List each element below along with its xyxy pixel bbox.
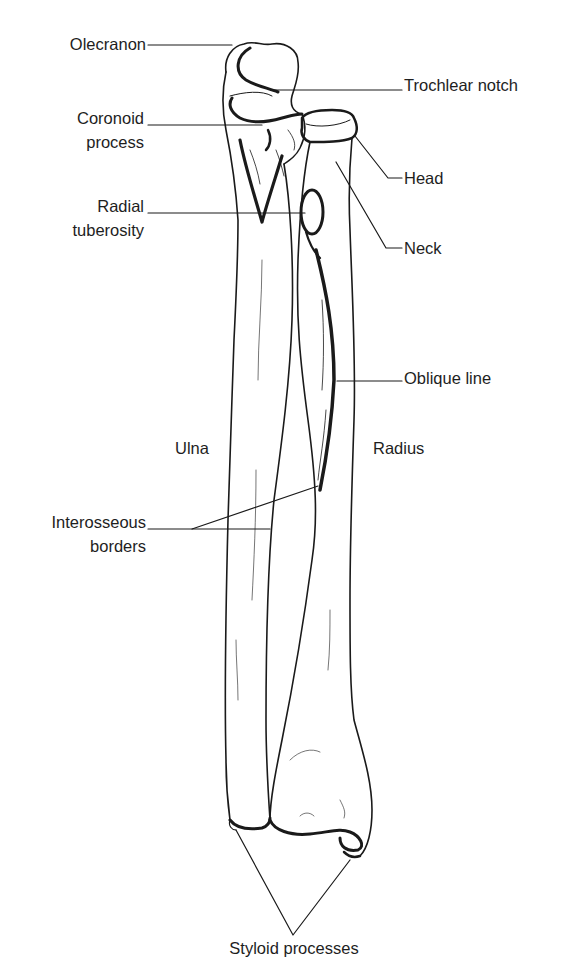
label-oblique-line: Oblique line [404, 368, 491, 388]
ulna-bone [223, 43, 305, 830]
label-interosseous-borders-line1: Interosseous [10, 512, 146, 532]
label-radial-tuberosity-line1: Radial [30, 196, 144, 216]
radius-bone [270, 110, 372, 857]
label-radial-tuberosity-line2: tuberosity [30, 220, 144, 240]
label-head: Head [404, 168, 443, 188]
label-ulna: Ulna [175, 438, 209, 458]
label-interosseous-borders-line2: borders [10, 536, 146, 556]
label-trochlear-notch: Trochlear notch [404, 75, 518, 95]
label-styloid-processes: Styloid processes [184, 938, 404, 958]
label-coronoid-process-line2: process [30, 132, 144, 152]
label-radius: Radius [373, 438, 424, 458]
label-coronoid-process-line1: Coronoid [30, 108, 144, 128]
label-olecranon: Olecranon [30, 34, 146, 54]
label-neck: Neck [404, 238, 442, 258]
